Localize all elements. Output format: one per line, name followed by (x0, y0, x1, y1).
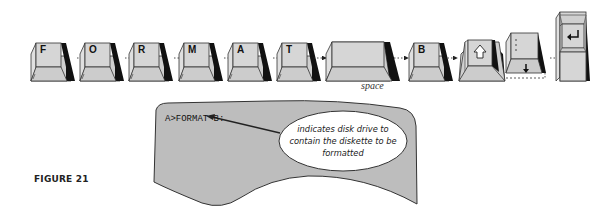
key-a: A (228, 43, 272, 81)
key-t: T (277, 43, 321, 81)
key-space (326, 42, 400, 81)
key-enter (556, 12, 590, 81)
key-f-label: F (40, 44, 46, 55)
key-o: O (80, 43, 124, 81)
figure-label: FIGURE 21 (34, 174, 89, 184)
svg-text:O: O (89, 44, 97, 55)
command-text: A>FORMAT B: (165, 114, 224, 124)
keystroke-sequence: F O R M A T B (0, 0, 614, 100)
key-b: B (409, 43, 453, 81)
key-r: R (129, 43, 173, 81)
key-shift (459, 40, 505, 81)
svg-text:R: R (138, 44, 146, 55)
space-key-caption: space (361, 80, 384, 91)
svg-text:A: A (237, 44, 244, 55)
svg-text:B: B (418, 44, 425, 55)
callout-text: indicates disk drive to contain the disk… (281, 112, 405, 170)
key-m: M (179, 43, 223, 81)
key-f: F (31, 43, 75, 81)
key-colon (506, 33, 546, 78)
svg-text:T: T (286, 44, 292, 55)
svg-text:M: M (188, 44, 196, 55)
